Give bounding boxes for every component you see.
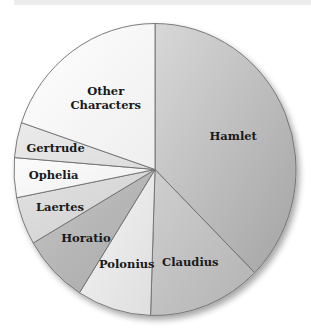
slice-label-ophelia: Ophelia: [29, 168, 79, 182]
slice-label-laertes: Laertes: [36, 200, 84, 214]
slice-label-hamlet: Hamlet: [209, 129, 257, 143]
slice-label-claudius: Claudius: [162, 255, 219, 269]
slice-label-polonius: Polonius: [99, 257, 155, 271]
pie-chart: HamletClaudiusPoloniusHoratioLaertesOphe…: [0, 0, 311, 328]
slice-label-gertrude: Gertrude: [26, 141, 84, 155]
slice-label-horatio: Horatio: [61, 231, 111, 245]
